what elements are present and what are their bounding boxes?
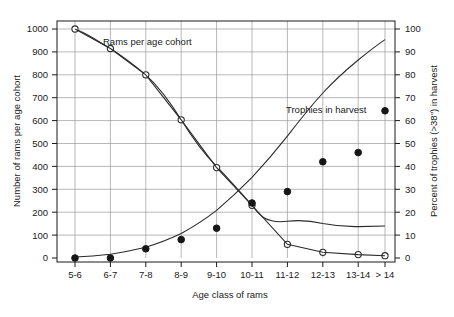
trophy-point — [382, 108, 389, 115]
x-axis-tick-labels: 5-6 6-7 7-8 8-9 9-10 10-11 11-12 12-13 1… — [68, 269, 394, 280]
x-tick-label: 6-7 — [104, 269, 118, 280]
trophy-point — [143, 246, 150, 253]
trophies-curve — [75, 40, 385, 257]
x-tick-label: > 14 — [376, 269, 395, 280]
x-axis-title: Age class of rams — [192, 289, 268, 300]
rams-curve — [75, 29, 385, 227]
x-tick-label: 8-9 — [174, 269, 188, 280]
right-tick-label: 50 — [405, 138, 416, 149]
right-tick-label: 70 — [405, 92, 416, 103]
x-tick-label: 13-14 — [346, 269, 370, 280]
left-tick-label: 200 — [32, 207, 48, 218]
right-axis-tick-labels: 100 90 80 70 60 50 40 30 20 10 0 — [405, 23, 421, 263]
x-tick-label: 7-8 — [139, 269, 153, 280]
trophy-point — [213, 225, 220, 232]
left-tick-label: 1000 — [27, 23, 48, 34]
left-tick-label: 400 — [32, 161, 48, 172]
left-tick-label: 800 — [32, 69, 48, 80]
left-tick-label: 600 — [32, 115, 48, 126]
trophy-point — [320, 159, 327, 166]
trophy-point — [107, 255, 114, 262]
annotation-trophies-in-harvest: Trophies in harvest — [286, 104, 367, 115]
x-tick-label: 5-6 — [68, 269, 82, 280]
right-tick-label: 90 — [405, 46, 416, 57]
chart-figure: 1000 900 800 700 600 500 400 300 200 100… — [0, 0, 454, 317]
x-axis-tickmarks — [75, 262, 385, 267]
right-tick-label: 0 — [405, 252, 410, 263]
x-tick-label: 9-10 — [207, 269, 226, 280]
left-tick-label: 300 — [32, 184, 48, 195]
trophy-point — [249, 200, 256, 207]
right-tick-label: 80 — [405, 69, 416, 80]
right-tick-label: 20 — [405, 207, 416, 218]
left-tick-label: 100 — [32, 230, 48, 241]
right-tick-label: 10 — [405, 230, 416, 241]
series-rams-per-age-cohort — [72, 26, 388, 259]
horizontal-gridlines — [57, 29, 395, 235]
trophy-point — [355, 149, 362, 156]
left-tick-label: 0 — [43, 252, 48, 263]
trophy-point — [72, 255, 79, 262]
right-axis-tickmarks — [395, 29, 400, 258]
left-axis-tickmarks — [52, 29, 57, 258]
y-left-axis-title: Number of rams per age cohort — [11, 75, 22, 207]
left-tick-label: 900 — [32, 46, 48, 57]
rams-trophies-chart: 1000 900 800 700 600 500 400 300 200 100… — [0, 0, 454, 317]
right-tick-label: 60 — [405, 115, 416, 126]
x-tick-label: 10-11 — [240, 269, 264, 280]
right-tick-label: 100 — [405, 23, 421, 34]
right-tick-label: 40 — [405, 161, 416, 172]
rams-curve-path — [75, 29, 385, 256]
series-trophies-in-harvest — [72, 40, 389, 262]
annotation-rams-per-age-cohort: Rams per age cohort — [103, 36, 192, 47]
y-right-axis-title: Percent of trophies (>38″) in harvest — [428, 65, 439, 217]
x-tick-label: 11-12 — [276, 269, 300, 280]
trophy-point — [178, 236, 185, 243]
left-tick-label: 500 — [32, 138, 48, 149]
x-tick-label: 12-13 — [311, 269, 335, 280]
left-tick-label: 700 — [32, 92, 48, 103]
trophy-point — [284, 188, 291, 195]
right-tick-label: 30 — [405, 184, 416, 195]
left-axis-tick-labels: 1000 900 800 700 600 500 400 300 200 100… — [27, 23, 48, 263]
